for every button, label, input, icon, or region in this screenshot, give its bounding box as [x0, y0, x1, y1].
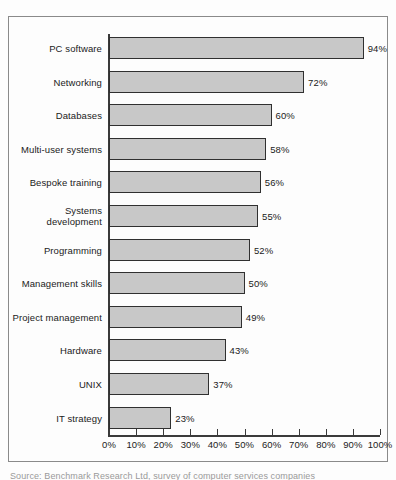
bar: [109, 239, 250, 261]
bar-value-label: 50%: [249, 278, 268, 289]
bar-value-label: 58%: [270, 143, 289, 154]
bar-value-label: 43%: [230, 345, 249, 356]
x-axis-tick: [109, 429, 110, 435]
bar-row: UNIX37%: [9, 373, 387, 395]
bar-category-label: Databases: [0, 110, 102, 121]
bar-row: Project management49%: [9, 306, 387, 328]
x-axis-tick: [353, 429, 354, 435]
category-axis-line: [108, 435, 380, 437]
bar: [109, 272, 245, 294]
x-axis-tick-label: 50%: [235, 439, 254, 450]
bar-category-label: Programming: [0, 244, 102, 255]
bar: [109, 104, 272, 126]
bar-category-label: Project management: [0, 311, 102, 322]
x-axis-tick-label: 40%: [208, 439, 227, 450]
x-axis-tick-label: 100%: [368, 439, 393, 450]
bar-row: PC software94%: [9, 37, 387, 59]
bar-row: Databases60%: [9, 104, 387, 126]
bar: [109, 205, 258, 227]
x-axis-tick-label: 70%: [289, 439, 308, 450]
x-axis-tick-label: 30%: [181, 439, 200, 450]
x-axis-tick-label: 90%: [343, 439, 362, 450]
bar-value-label: 49%: [246, 311, 265, 322]
bar-category-label: Management skills: [0, 278, 102, 289]
x-axis-tick: [163, 429, 164, 435]
bar-row: Networking72%: [9, 71, 387, 93]
bar-row: IT strategy23%: [9, 407, 387, 429]
x-axis-tick-label: 0%: [102, 439, 116, 450]
bar-value-label: 55%: [262, 211, 281, 222]
bar-value-label: 72%: [308, 76, 327, 87]
bar-row: Management skills50%: [9, 272, 387, 294]
bar-value-label: 52%: [254, 244, 273, 255]
x-axis-tick-label: 80%: [316, 439, 335, 450]
x-axis-tick: [190, 429, 191, 435]
bar-value-label: 23%: [175, 412, 194, 423]
figure-caption: Source: Benchmark Research Ltd, survey o…: [10, 471, 390, 480]
bar-category-label: UNIX: [0, 379, 102, 390]
x-axis-tick-label: 20%: [154, 439, 173, 450]
x-axis-tick: [299, 429, 300, 435]
bar-category-label: IT strategy: [0, 412, 102, 423]
bar: [109, 138, 266, 160]
bar-value-label: 60%: [276, 110, 295, 121]
bar-value-label: 94%: [368, 43, 387, 54]
bar-value-label: 37%: [213, 379, 232, 390]
x-axis-tick: [217, 429, 218, 435]
scanned-page-background: PC software94%Networking72%Databases60%M…: [0, 0, 396, 480]
bar: [109, 171, 261, 193]
bar: [109, 71, 304, 93]
bar: [109, 37, 364, 59]
bar-category-label: Networking: [0, 76, 102, 87]
bar-category-label: Hardware: [0, 345, 102, 356]
bar-row: Hardware43%: [9, 339, 387, 361]
bar: [109, 339, 226, 361]
x-axis-tick: [326, 429, 327, 435]
x-axis-tick: [272, 429, 273, 435]
x-axis-tick: [136, 429, 137, 435]
bar-row: Programming52%: [9, 239, 387, 261]
bar-category-label: Multi-user systems: [0, 143, 102, 154]
bar-category-label: Bespoke training: [0, 177, 102, 188]
bar-row: Bespoke training56%: [9, 171, 387, 193]
x-axis-tick-label: 60%: [262, 439, 281, 450]
bar: [109, 407, 171, 429]
chart-frame: PC software94%Networking72%Databases60%M…: [8, 16, 388, 462]
bar-category-label: PC software: [0, 43, 102, 54]
bar-row: Systems development55%: [9, 205, 387, 227]
bar-row: Multi-user systems58%: [9, 138, 387, 160]
plot-area: PC software94%Networking72%Databases60%M…: [9, 17, 387, 461]
bar-category-label: Systems development: [0, 205, 102, 227]
x-axis-tick: [245, 429, 246, 435]
x-axis-tick-label: 10%: [126, 439, 145, 450]
bar: [109, 373, 209, 395]
bar: [109, 306, 242, 328]
bar-value-label: 56%: [265, 177, 284, 188]
x-axis-tick: [380, 429, 381, 435]
